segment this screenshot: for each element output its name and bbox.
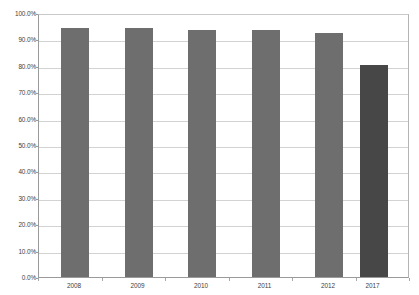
- y-axis-tick-label: 70.0%: [2, 90, 36, 96]
- bar-2012: [315, 33, 343, 277]
- x-axis-tick-mark: [102, 278, 103, 281]
- gridline: [39, 147, 408, 148]
- y-axis-tick-label: 80.0%: [2, 64, 36, 70]
- x-axis-tick-mark: [229, 278, 230, 281]
- gridline: [39, 41, 408, 42]
- bar-2011: [252, 30, 280, 277]
- y-axis-tick-label: 30.0%: [2, 196, 36, 202]
- y-axis-tick-label: 10.0%: [2, 248, 36, 254]
- gridline: [39, 68, 408, 69]
- y-axis-tick-label: 60.0%: [2, 116, 36, 122]
- y-axis-tick-label: 90.0%: [2, 37, 36, 43]
- bar-2010: [188, 30, 216, 277]
- x-axis-label-2011: 2011: [235, 283, 295, 289]
- y-axis-tick-label: 50.0%: [2, 143, 36, 149]
- bar-chart: 100.0% 90.0% 80.0% 70.0% 60.0% 50.0% 40.…: [0, 0, 419, 295]
- y-axis-tick-label: 0.0%: [2, 275, 36, 281]
- bar-2008: [61, 28, 89, 277]
- x-axis-label-2017: 2017: [343, 283, 403, 289]
- x-axis-tick-mark: [38, 278, 39, 281]
- plot-area: [38, 14, 409, 278]
- gridline: [39, 121, 408, 122]
- x-axis-tick-mark: [292, 278, 293, 281]
- y-axis: 100.0% 90.0% 80.0% 70.0% 60.0% 50.0% 40.…: [0, 0, 36, 295]
- x-axis-label-2008: 2008: [44, 283, 104, 289]
- x-axis-tick-mark: [165, 278, 166, 281]
- x-axis-label-2010: 2010: [171, 283, 231, 289]
- gridline: [39, 200, 408, 201]
- x-axis-tick-mark: [409, 278, 410, 281]
- gridline: [39, 173, 408, 174]
- bar-2009: [125, 28, 153, 277]
- y-axis-tick-label: 20.0%: [2, 222, 36, 228]
- gridline: [39, 94, 408, 95]
- y-axis-tick-label: 40.0%: [2, 169, 36, 175]
- gridline: [39, 253, 408, 254]
- y-axis-tick-label: 100.0%: [2, 11, 36, 17]
- gridline: [39, 226, 408, 227]
- x-axis-tick-mark: [356, 278, 357, 281]
- x-axis-label-2009: 2009: [108, 283, 168, 289]
- bar-2017: [360, 65, 388, 277]
